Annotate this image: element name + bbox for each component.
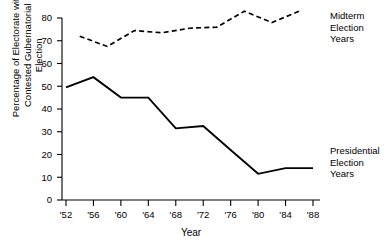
legend-label-presidential: Presidential Election Years	[330, 145, 380, 180]
x-tick-label: '84	[279, 209, 291, 220]
x-tick-label: '60	[115, 209, 127, 220]
series-line-presidential	[66, 77, 313, 174]
y-tick-label: 10	[41, 172, 52, 183]
y-tick-label: 30	[41, 126, 52, 137]
x-tick-label: '64	[142, 209, 154, 220]
y-tick-label: 20	[41, 149, 52, 160]
y-axis-title-line1: Percentage of Electorate with	[10, 0, 22, 120]
x-axis-title: Year	[181, 227, 202, 238]
axis-lines	[62, 18, 320, 200]
x-tick-label: '76	[224, 209, 236, 220]
y-axis-title: Percentage of Electorate with Contested …	[10, 0, 45, 120]
x-tick-label: '72	[197, 209, 209, 220]
x-tick-label: '68	[170, 209, 182, 220]
y-axis-ticks: 01020304050607080	[41, 12, 62, 205]
data-series-layer	[66, 11, 313, 174]
x-axis-ticks: '52'56'60'64'68'72'76'80'84'88	[60, 200, 319, 220]
x-tick-label: '80	[252, 209, 264, 220]
x-tick-label: '52	[60, 209, 72, 220]
x-tick-label: '56	[87, 209, 99, 220]
y-tick-label: 0	[47, 194, 52, 205]
chart-figure: 01020304050607080 '52'56'60'64'68'72'76'…	[0, 0, 391, 244]
y-axis-title-line2: Contested Gubernatorial Election	[21, 0, 44, 120]
legend-label-midterm: Midterm Election Years	[330, 10, 364, 45]
series-line-midterm	[80, 11, 300, 46]
x-tick-label: '88	[307, 209, 319, 220]
